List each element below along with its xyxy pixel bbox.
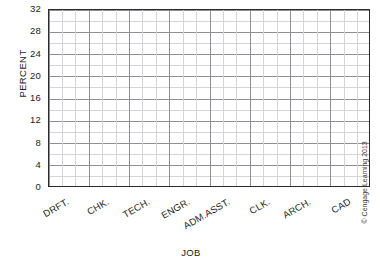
x-axis-title: JOB xyxy=(0,247,382,258)
x-axis-tick-label-text: DRFT. xyxy=(41,196,71,219)
chart-figure: PERCENT 048121620242832 DRFT.CHK.TECH.EN… xyxy=(0,0,382,270)
x-axis-tick-labels: DRFT.CHK.TECH.ENGR.ADM.ASST.CLK.ARCH.CAD xyxy=(0,0,382,270)
x-axis-tick-label-text: CAD xyxy=(329,196,352,216)
copyright-notice: © Cengage Learning 2013 xyxy=(361,104,368,224)
x-axis-tick-label-text: CLK. xyxy=(248,196,272,216)
x-axis-tick-label-text: CHK. xyxy=(85,196,111,217)
x-axis-tick-label-text: TECH. xyxy=(120,196,151,220)
x-axis-tick-label-text: ARCH. xyxy=(280,196,312,221)
